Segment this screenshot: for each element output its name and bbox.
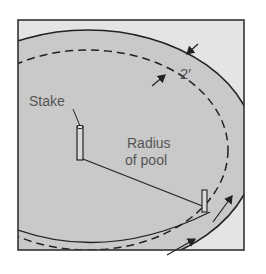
radius-label-line2: of pool xyxy=(125,152,167,168)
offset-label: 2′ xyxy=(180,65,191,82)
center-stake xyxy=(77,126,83,160)
pool-layout-diagram: 2′ Stake Radius of pool xyxy=(0,0,266,274)
diagram-svg: 2′ Stake Radius of pool xyxy=(0,0,266,274)
radius-label-line1: Radius xyxy=(127,135,171,151)
stake-label: Stake xyxy=(29,93,65,109)
center-stake-top xyxy=(77,125,83,128)
outer-stake xyxy=(202,190,207,212)
